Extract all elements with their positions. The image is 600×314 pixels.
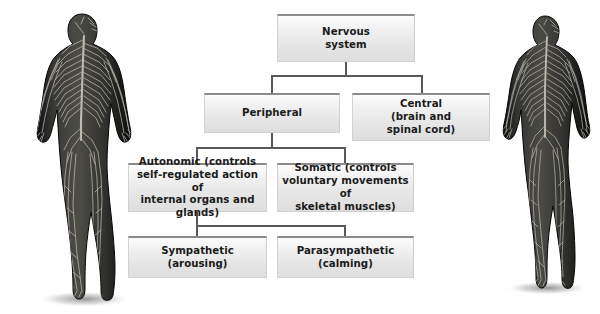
node-sympathetic-label: Sympathetic (arousing) [157, 245, 238, 270]
node-somatic[interactable]: Somatic (controls voluntary movements of… [277, 163, 414, 212]
node-autonomic-label: Autonomic (controls self-regulated actio… [129, 156, 266, 220]
diagram-canvas: Nervous system Peripheral Central (brain… [0, 0, 600, 314]
connector-level2-horizontal [196, 147, 346, 149]
node-central-label: Central (brain and spinal cord) [383, 98, 460, 136]
node-peripheral-label: Peripheral [238, 107, 306, 120]
connector-peripheral-down [271, 132, 273, 148]
node-autonomic[interactable]: Autonomic (controls self-regulated actio… [128, 163, 267, 212]
node-central[interactable]: Central (brain and spinal cord) [352, 93, 490, 141]
node-parasympathetic-label: Parasympathetic (calming) [293, 245, 399, 270]
connector-down-to-peripheral [271, 75, 273, 94]
node-parasympathetic[interactable]: Parasympathetic (calming) [277, 236, 414, 278]
connector-down-to-central [421, 75, 423, 94]
connector-level1-horizontal [271, 75, 423, 77]
node-peripheral[interactable]: Peripheral [204, 93, 340, 133]
node-sympathetic[interactable]: Sympathetic (arousing) [128, 236, 267, 278]
node-nervous-system-label: Nervous system [318, 26, 374, 51]
figure-right-nervous-system-illustration [495, 0, 600, 314]
node-nervous-system[interactable]: Nervous system [277, 14, 415, 62]
node-somatic-label: Somatic (controls voluntary movements of… [278, 162, 413, 213]
connector-level3-horizontal [196, 225, 346, 227]
connector-nervous-system-down [345, 61, 347, 76]
